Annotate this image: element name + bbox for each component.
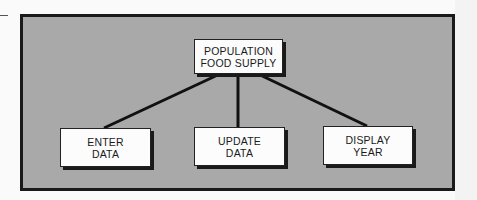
node-label-line1: DISPLAY	[346, 134, 391, 146]
connector-lines	[0, 0, 477, 200]
node-label-line1: POPULATION	[200, 45, 276, 57]
node-label-line2: DATA	[87, 148, 124, 160]
node-label-line1: UPDATE	[218, 135, 261, 147]
node-label-line2: DATA	[218, 147, 261, 159]
node-population-food-supply: POPULATION FOOD SUPPLY	[194, 39, 283, 74]
edge-root-enter	[104, 73, 222, 128]
node-label-line1: ENTER	[87, 136, 124, 148]
node-enter-data: ENTER DATA	[60, 128, 151, 167]
node-label-line2: YEAR	[346, 146, 391, 158]
node-update-data: UPDATE DATA	[194, 127, 285, 166]
node-display-year: DISPLAY YEAR	[323, 126, 413, 165]
edge-root-display	[256, 73, 367, 126]
node-label-line2: FOOD SUPPLY	[200, 57, 276, 69]
